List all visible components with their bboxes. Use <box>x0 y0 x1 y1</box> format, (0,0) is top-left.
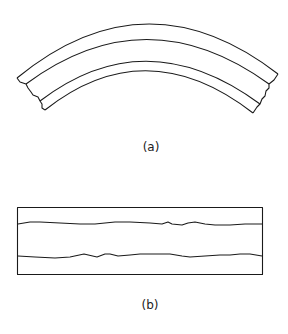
strip-upper-wavy-boundary <box>18 222 262 225</box>
arc-third-boundary <box>40 61 260 104</box>
panel-a-label: (a) <box>143 140 160 154</box>
panel-b-label: (b) <box>142 298 159 312</box>
arc-outer-boundary <box>17 24 278 78</box>
arc-inner-boundary <box>45 71 253 113</box>
panel-b-straight-strip <box>18 208 263 275</box>
strip-lower-wavy-boundary <box>18 254 262 258</box>
arc-left-broken-end <box>17 78 45 110</box>
panel-a-arc-strip <box>17 24 278 113</box>
strip-outline <box>18 208 263 275</box>
figure-canvas <box>0 0 288 334</box>
arc-right-broken-end <box>253 74 278 113</box>
